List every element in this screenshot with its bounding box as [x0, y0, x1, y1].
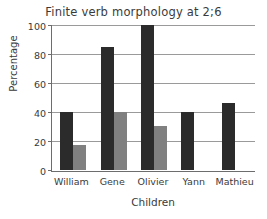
bar-groups: [53, 26, 255, 170]
x-axis-tick-label: Olivier: [133, 176, 174, 187]
x-axis-tick-label: Yann: [173, 176, 214, 187]
bar: [181, 112, 194, 170]
y-axis-tick-label: 0: [40, 166, 46, 177]
chart-figure: Finite verb morphology at 2;6 Percentage…: [0, 0, 267, 219]
y-axis-label: Percentage: [8, 24, 19, 104]
bar: [114, 112, 127, 170]
y-axis-tick-label: 20: [34, 137, 46, 148]
bar-group: [93, 26, 133, 170]
y-axis-tick-label: 80: [34, 50, 46, 61]
bar: [101, 47, 114, 170]
y-axis-tick-mark: [48, 170, 52, 171]
plot-area: 020406080100: [51, 26, 255, 172]
bar-group: [53, 26, 93, 170]
bar: [222, 103, 235, 170]
y-axis-tick-mark: [48, 83, 52, 84]
y-axis-tick-label: 60: [34, 79, 46, 90]
y-axis-tick-label: 40: [34, 108, 46, 119]
x-axis-tick-label: Gene: [92, 176, 133, 187]
chart-title: Finite verb morphology at 2;6: [0, 5, 267, 19]
x-axis-tick-label: Mathieu: [214, 176, 255, 187]
bar: [73, 145, 86, 170]
bar-group: [134, 26, 174, 170]
bar: [154, 126, 167, 170]
bar: [141, 25, 154, 170]
y-axis-tick-mark: [48, 25, 52, 26]
y-axis-tick-mark: [48, 54, 52, 55]
x-axis-label: Children: [51, 196, 255, 208]
x-axis-tick-label: William: [51, 176, 92, 187]
y-axis-tick-mark: [48, 141, 52, 142]
x-axis-tick-labels: WilliamGeneOlivierYannMathieu: [51, 176, 255, 187]
bar: [60, 112, 73, 170]
bar-group: [174, 26, 214, 170]
y-axis-tick-mark: [48, 112, 52, 113]
bar-group: [215, 26, 255, 170]
y-axis-tick-label: 100: [28, 21, 46, 32]
